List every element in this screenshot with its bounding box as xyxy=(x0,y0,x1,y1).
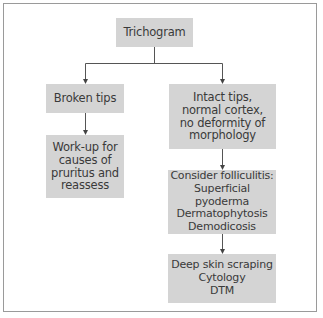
node-tests: Deep skin scraping Cytology DTM xyxy=(168,254,276,303)
node-label: Intact tips, normal cortex, no deformity… xyxy=(180,91,265,142)
node-label: Broken tips xyxy=(54,92,116,105)
node-label: Consider folliculitis: Superficial pyode… xyxy=(170,170,274,234)
node-trichogram: Trichogram xyxy=(116,18,193,47)
node-label: Deep skin scraping Cytology DTM xyxy=(171,259,273,297)
node-intact-tips: Intact tips, normal cortex, no deformity… xyxy=(169,84,276,149)
node-workup: Work-up for causes of pruritus and reass… xyxy=(46,135,124,198)
node-broken-tips: Broken tips xyxy=(46,84,124,113)
node-label: Trichogram xyxy=(123,26,185,39)
node-folliculitis: Consider folliculitis: Superficial pyode… xyxy=(168,170,276,234)
node-label: Work-up for causes of pruritus and reass… xyxy=(51,141,119,192)
